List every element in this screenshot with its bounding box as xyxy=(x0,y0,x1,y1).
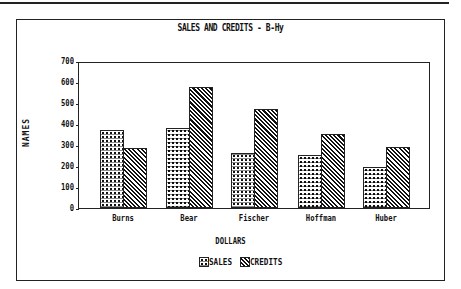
x-category-label: Huber xyxy=(362,213,410,223)
legend-credits-swatch xyxy=(240,257,250,267)
bar-sales-huber xyxy=(363,167,387,208)
plot-area xyxy=(78,62,430,209)
legend-sales-swatch xyxy=(199,257,209,267)
bar-sales-bear xyxy=(166,128,190,208)
y-tick-label: 700 xyxy=(55,56,74,66)
bar-sales-hoffman xyxy=(298,155,322,208)
x-category-label: Bear xyxy=(165,213,213,223)
legend: SALES CREDITS xyxy=(199,257,292,267)
x-axis-label: DOLLARS xyxy=(46,236,415,246)
bar-credits-bear xyxy=(189,87,213,208)
x-category-label: Hoffman xyxy=(297,213,345,223)
bar-credits-huber xyxy=(386,147,410,208)
legend-sales-label: SALES xyxy=(209,257,232,267)
y-tick-label: 100 xyxy=(55,182,74,192)
y-axis-label: NAMES xyxy=(22,118,31,147)
y-tick-label: 200 xyxy=(55,161,74,171)
x-category-label: Fischer xyxy=(230,213,278,223)
chart-title: SALES AND CREDITS - B-Hy xyxy=(46,22,415,33)
y-tick-label: 300 xyxy=(55,140,74,150)
legend-credits-label: CREDITS xyxy=(250,257,282,267)
y-tick-label: 400 xyxy=(55,119,74,129)
top-rule xyxy=(0,2,449,4)
bar-sales-burns xyxy=(100,130,124,208)
x-category-label: Burns xyxy=(99,213,147,223)
y-tick-label: 600 xyxy=(55,77,74,87)
y-tick-mark xyxy=(76,209,79,210)
y-tick-label: 500 xyxy=(55,98,74,108)
bar-credits-fischer xyxy=(254,109,278,208)
bar-sales-fischer xyxy=(231,153,255,208)
y-tick-label: 0 xyxy=(55,203,74,213)
bar-credits-hoffman xyxy=(321,134,345,208)
bar-credits-burns xyxy=(123,148,147,208)
